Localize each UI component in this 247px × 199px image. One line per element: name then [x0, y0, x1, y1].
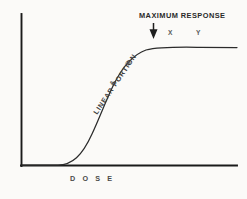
plateau-point-x-label: X [168, 30, 172, 37]
x-axis-title: D O S E [70, 175, 115, 182]
dose-response-figure: MAXIMUM RESPONSE X Y A B LINEAR PORTION … [0, 0, 247, 199]
chart-canvas [0, 0, 247, 199]
maximum-response-label: MAXIMUM RESPONSE [139, 12, 225, 19]
maximum-response-arrow-icon [151, 23, 157, 37]
plateau-point-y-label: Y [196, 30, 200, 37]
